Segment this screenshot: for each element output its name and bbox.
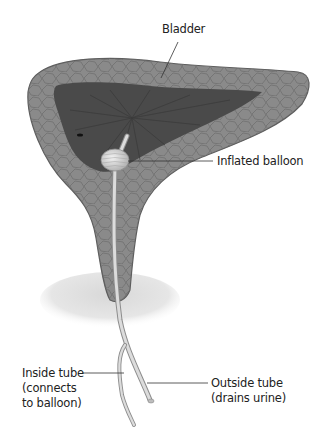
inside-tube-label-line3: to balloon): [22, 396, 84, 411]
inside-tube-label-line2: (connects: [22, 381, 84, 396]
outside-tube-label-line1: Outside tube: [211, 376, 286, 391]
outside-tube-label: Outside tube (drains urine): [211, 376, 286, 406]
inside-tube-label-line1: Inside tube: [22, 366, 84, 381]
catheter-diagram: Bladder Inflated balloon Inside tube (co…: [0, 0, 326, 440]
bladder-label: Bladder: [162, 22, 205, 37]
outside-tube-label-line2: (drains urine): [211, 391, 286, 406]
balloon-label: Inflated balloon: [217, 154, 303, 169]
ureter-opening: [77, 134, 83, 137]
inflated-balloon: [101, 149, 129, 171]
inside-tube-label: Inside tube (connects to balloon): [22, 366, 84, 411]
